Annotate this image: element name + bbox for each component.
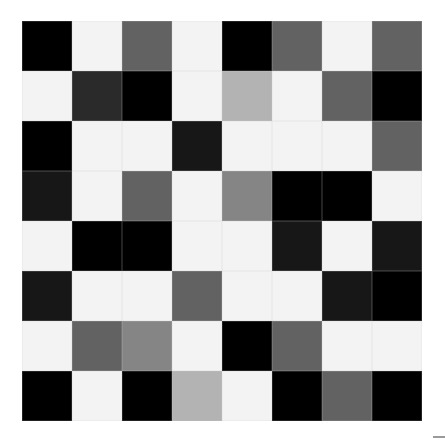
- grid-cell-r0-c4: [222, 21, 272, 71]
- grid-cell-r7-c2: [122, 371, 172, 421]
- grid-cell-r1-c7: [372, 71, 422, 121]
- grid-cell-r6-c2: [122, 321, 172, 371]
- grid-cell-r3-c2: [122, 171, 172, 221]
- grid-cell-r6-c4: [222, 321, 272, 371]
- grid-cell-r4-c5: [272, 221, 322, 271]
- grid-cell-r4-c4: [222, 221, 272, 271]
- grid-cell-r0-c2: [122, 21, 172, 71]
- grid-cell-r2-c1: [72, 121, 122, 171]
- grid-cell-r0-c1: [72, 21, 122, 71]
- grid-cell-r3-c6: [322, 171, 372, 221]
- grid-cell-r4-c6: [322, 221, 372, 271]
- grid-cell-r5-c6: [322, 271, 372, 321]
- grid-cell-r6-c0: [22, 321, 72, 371]
- grayscale-grid: [22, 21, 422, 421]
- corner-mark: [433, 436, 445, 438]
- grid-cell-r1-c6: [322, 71, 372, 121]
- grid-cell-r7-c5: [272, 371, 322, 421]
- grid-cell-r0-c7: [372, 21, 422, 71]
- grid-cell-r2-c2: [122, 121, 172, 171]
- grid-cell-r6-c1: [72, 321, 122, 371]
- grid-cell-r2-c7: [372, 121, 422, 171]
- grid-cell-r2-c4: [222, 121, 272, 171]
- grid-cell-r3-c5: [272, 171, 322, 221]
- grid-cell-r5-c5: [272, 271, 322, 321]
- grid-cell-r5-c2: [122, 271, 172, 321]
- grid-cell-r7-c4: [222, 371, 272, 421]
- grid-cell-r1-c1: [72, 71, 122, 121]
- grid-cell-r2-c5: [272, 121, 322, 171]
- grid-cell-r2-c3: [172, 121, 222, 171]
- grid-cell-r7-c1: [72, 371, 122, 421]
- grid-cell-r7-c7: [372, 371, 422, 421]
- grid-cell-r4-c3: [172, 221, 222, 271]
- grid-cell-r6-c5: [272, 321, 322, 371]
- grid-cell-r7-c6: [322, 371, 372, 421]
- grid-cell-r1-c4: [222, 71, 272, 121]
- grid-cell-r5-c7: [372, 271, 422, 321]
- grid-cell-r1-c0: [22, 71, 72, 121]
- grid-cell-r3-c1: [72, 171, 122, 221]
- grid-cell-r0-c0: [22, 21, 72, 71]
- grid-cell-r1-c5: [272, 71, 322, 121]
- grid-cell-r0-c5: [272, 21, 322, 71]
- grid-cell-r2-c6: [322, 121, 372, 171]
- grid-cell-r3-c4: [222, 171, 272, 221]
- grid-cell-r5-c3: [172, 271, 222, 321]
- grid-cell-r0-c3: [172, 21, 222, 71]
- grid-cell-r3-c7: [372, 171, 422, 221]
- grid-cell-r5-c0: [22, 271, 72, 321]
- grid-cell-r0-c6: [322, 21, 372, 71]
- grid-cell-r6-c7: [372, 321, 422, 371]
- grid-cell-r1-c2: [122, 71, 172, 121]
- grid-cell-r4-c0: [22, 221, 72, 271]
- grid-cell-r4-c1: [72, 221, 122, 271]
- grid-cell-r5-c1: [72, 271, 122, 321]
- grid-cell-r6-c6: [322, 321, 372, 371]
- grid-cell-r7-c0: [22, 371, 72, 421]
- grid-cell-r3-c3: [172, 171, 222, 221]
- grid-cell-r1-c3: [172, 71, 222, 121]
- grid-cell-r5-c4: [222, 271, 272, 321]
- grid-cell-r3-c0: [22, 171, 72, 221]
- grid-cell-r7-c3: [172, 371, 222, 421]
- grid-cell-r6-c3: [172, 321, 222, 371]
- grid-cell-r4-c7: [372, 221, 422, 271]
- grid-cell-r4-c2: [122, 221, 172, 271]
- grid-cell-r2-c0: [22, 121, 72, 171]
